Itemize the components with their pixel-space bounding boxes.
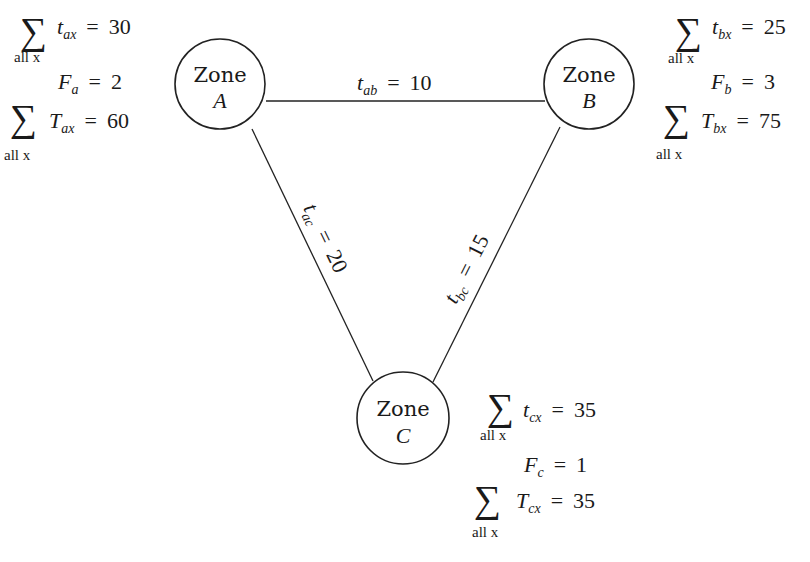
sigma-icon: ∑ — [20, 10, 47, 53]
svg-text:all x: all x — [668, 50, 695, 66]
svg-text:all x: all x — [14, 49, 41, 65]
svg-text:all x: all x — [480, 427, 507, 443]
svg-text:tax=30: tax=30 — [57, 14, 131, 42]
zone-a-sum-T: ∑ all x Tax=60 — [4, 97, 129, 163]
zone-network-diagram: Zone A Zone B Zone C tab=10 tac=20 tbc=1… — [0, 0, 810, 562]
sigma-icon: ∑ — [663, 97, 690, 140]
svg-text:tbc=15: tbc=15 — [438, 230, 496, 308]
zone-a-sum-t: ∑ all x tax=30 — [14, 10, 131, 65]
sigma-icon: ∑ — [675, 10, 702, 53]
svg-text:all x: all x — [656, 146, 683, 162]
link-bc-label: tbc=15 — [438, 230, 496, 308]
zone-b-f: Fb=3 — [710, 69, 775, 97]
svg-text:tbx=25: tbx=25 — [712, 14, 786, 42]
zone-b-letter: B — [582, 88, 595, 113]
svg-text:Fa=2: Fa=2 — [57, 69, 122, 97]
link-ac-line — [252, 129, 373, 381]
svg-text:Tax=60: Tax=60 — [49, 108, 129, 136]
zone-c-sum-t: ∑ all x tcx=35 — [480, 386, 596, 443]
svg-text:tab=10: tab=10 — [357, 70, 432, 98]
sigma-icon: ∑ — [487, 386, 514, 429]
zone-a-node: Zone A — [175, 39, 265, 129]
zone-a-label: Zone — [193, 63, 246, 87]
zone-b-node: Zone B — [544, 39, 634, 129]
link-ab-label: tab=10 — [357, 70, 432, 98]
zone-c-node: Zone C — [357, 372, 449, 464]
zone-c-stats: ∑ all x tcx=35 Fc=1 ∑ all x Tcx=35 — [472, 386, 596, 540]
svg-text:Fb=3: Fb=3 — [710, 69, 775, 97]
zone-a-f: Fa=2 — [57, 69, 122, 97]
svg-text:all x: all x — [4, 147, 31, 163]
zone-b-stats: ∑ all x tbx=25 Fb=3 ∑ all x Tbx=75 — [656, 10, 786, 162]
zone-a-letter: A — [211, 88, 227, 113]
zone-c-letter: C — [396, 423, 411, 448]
svg-text:tcx=35: tcx=35 — [523, 397, 596, 425]
zone-b-label: Zone — [562, 63, 615, 87]
sigma-icon: ∑ — [10, 97, 37, 140]
zone-b-sum-T: ∑ all x Tbx=75 — [656, 97, 781, 162]
svg-text:Fc=1: Fc=1 — [523, 452, 587, 480]
zone-b-sum-t: ∑ all x tbx=25 — [668, 10, 786, 66]
zone-c-sum-T: ∑ all x Tcx=35 — [472, 478, 595, 540]
svg-text:Tbx=75: Tbx=75 — [701, 108, 781, 136]
zone-c-f: Fc=1 — [523, 452, 587, 480]
svg-text:all x: all x — [472, 524, 499, 540]
zone-c-label: Zone — [376, 397, 429, 421]
link-bc-line — [433, 127, 560, 382]
zone-a-stats: ∑ all x tax=30 Fa=2 ∑ all x Tax=60 — [4, 10, 131, 163]
svg-text:Tcx=35: Tcx=35 — [516, 488, 595, 516]
sigma-icon: ∑ — [474, 478, 501, 521]
